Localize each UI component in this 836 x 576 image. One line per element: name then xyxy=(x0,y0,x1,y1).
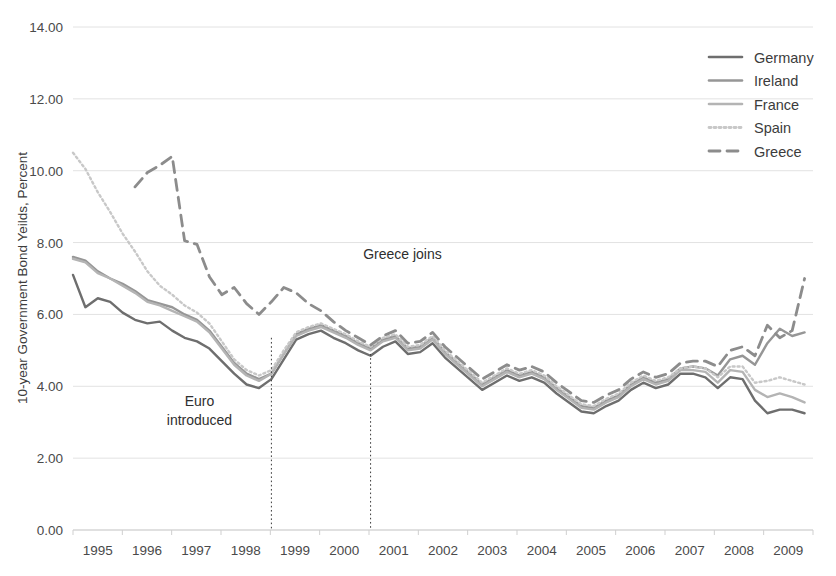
y-axis-ticks: 0.002.004.006.008.0010.0012.0014.00 xyxy=(29,20,63,538)
x-tick-label: 2003 xyxy=(477,543,507,558)
legend-label-spain: Spain xyxy=(754,120,791,136)
legend-label-germany: Germany xyxy=(754,50,814,66)
y-tick-label: 14.00 xyxy=(29,20,63,35)
x-tick-label: 2005 xyxy=(576,543,606,558)
chart-legend: GermanyIrelandFranceSpainGreece xyxy=(709,50,814,160)
y-axis-title-text: 10-year Government Bond Yeilds, Percent xyxy=(15,152,30,404)
legend-label-greece: Greece xyxy=(754,144,802,160)
x-tick-label: 1996 xyxy=(132,543,162,558)
y-tick-label: 4.00 xyxy=(37,379,63,394)
chart-container: 0.002.004.006.008.0010.0012.0014.00 1995… xyxy=(0,0,836,576)
annotation-euro-introduced: introduced xyxy=(167,412,232,428)
y-tick-label: 12.00 xyxy=(29,92,63,107)
x-tick-label: 2009 xyxy=(773,543,803,558)
legend-label-france: France xyxy=(754,97,799,113)
y-tick-label: 0.00 xyxy=(37,523,63,538)
x-tick-label: 1998 xyxy=(231,543,261,558)
x-tick-label: 2001 xyxy=(379,543,409,558)
gridlines xyxy=(73,27,813,530)
x-tick-label: 2007 xyxy=(675,543,705,558)
x-axis xyxy=(73,530,813,535)
x-tick-label: 1999 xyxy=(280,543,310,558)
series-line-spain xyxy=(73,153,805,406)
x-tick-label: 1995 xyxy=(83,543,113,558)
line-chart: 0.002.004.006.008.0010.0012.0014.00 1995… xyxy=(0,0,836,576)
annotation-euro-introduced: Euro xyxy=(185,393,215,409)
series-lines xyxy=(73,153,805,413)
x-tick-label: 2008 xyxy=(724,543,754,558)
x-tick-label: 2006 xyxy=(625,543,655,558)
x-tick-label: 2002 xyxy=(428,543,458,558)
y-tick-label: 2.00 xyxy=(37,451,63,466)
x-tick-label: 2000 xyxy=(329,543,359,558)
event-marker-lines xyxy=(271,338,370,530)
y-tick-label: 6.00 xyxy=(37,307,63,322)
x-axis-ticks: 1995199619971998199920002001200220032004… xyxy=(83,543,804,558)
y-tick-label: 8.00 xyxy=(37,236,63,251)
series-line-france xyxy=(73,259,805,410)
x-tick-label: 2004 xyxy=(527,543,558,558)
y-axis-title: 10-year Government Bond Yeilds, Percent xyxy=(15,152,30,404)
series-line-ireland xyxy=(73,257,805,408)
y-tick-label: 10.00 xyxy=(29,164,63,179)
annotation-greece-joins: Greece joins xyxy=(363,246,442,262)
x-tick-label: 1997 xyxy=(181,543,211,558)
legend-label-ireland: Ireland xyxy=(754,73,798,89)
